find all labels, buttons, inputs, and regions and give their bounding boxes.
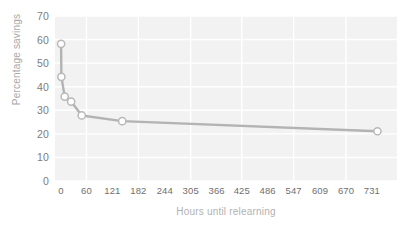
data-point-marker — [374, 128, 381, 135]
forgetting-curve-chart: 010203040506070 060121182244305366425486… — [0, 0, 410, 228]
plot-area — [55, 16, 397, 181]
y-axis-tick-labels: 010203040506070 — [0, 16, 49, 181]
data-point-marker — [61, 93, 68, 100]
x-axis-tick-label: 182 — [130, 186, 146, 196]
x-axis-tick-label: 305 — [183, 186, 199, 196]
y-axis-tick-label: 0 — [3, 176, 49, 187]
x-axis-tick-label: 547 — [286, 186, 302, 196]
x-axis-tick-label: 670 — [338, 186, 354, 196]
y-axis-tick-label: 10 — [3, 152, 49, 163]
data-series-line — [55, 16, 397, 181]
x-axis-tick-label: 60 — [81, 186, 92, 196]
x-axis-tick-label: 366 — [209, 186, 225, 196]
data-point-marker — [58, 73, 65, 80]
x-axis-tick-label: 731 — [364, 186, 380, 196]
x-axis-tick-label: 609 — [312, 186, 328, 196]
x-axis-tick-label: 486 — [260, 186, 276, 196]
x-axis-title: Hours until relearning — [55, 206, 397, 217]
data-point-marker — [58, 40, 65, 47]
data-point-marker — [119, 118, 126, 125]
y-axis-title: Percentage savings — [11, 0, 22, 120]
x-axis-tick-label: 121 — [104, 186, 120, 196]
x-axis-tick-label: 425 — [234, 186, 250, 196]
x-axis-tick-label: 244 — [157, 186, 173, 196]
x-axis-tick-label: 0 — [58, 186, 63, 196]
data-point-marker — [68, 98, 75, 105]
data-point-marker — [78, 112, 85, 119]
x-axis-tick-labels: 060121182244305366425486547609670731 — [55, 186, 397, 200]
y-axis-tick-label: 20 — [3, 129, 49, 140]
series-polyline — [61, 44, 377, 131]
